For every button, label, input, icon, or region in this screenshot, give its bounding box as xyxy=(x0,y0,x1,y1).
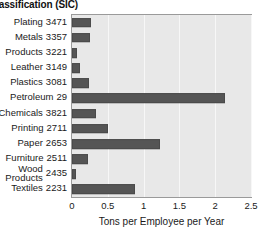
bar-row xyxy=(72,182,251,197)
bar xyxy=(72,124,108,134)
category-name: Metals xyxy=(15,32,43,42)
bar-row xyxy=(72,15,251,30)
category-label: Products3221 xyxy=(0,44,69,59)
category-code: 2653 xyxy=(46,138,67,148)
x-axis-label: Tons per Employee per Year xyxy=(71,216,252,227)
x-tick-label: 2 xyxy=(213,200,218,211)
bar-row xyxy=(72,121,251,136)
category-label: Plastics3081 xyxy=(0,75,69,90)
bar-row xyxy=(72,30,251,45)
bar-row xyxy=(72,76,251,91)
x-tick-label: 1.5 xyxy=(173,200,186,211)
x-tick-label: 0 xyxy=(69,200,74,211)
category-label: Petroleum29 xyxy=(0,90,69,105)
bar-row xyxy=(72,136,251,151)
x-tick-label: 2.5 xyxy=(244,200,257,211)
category-label: Metals3357 xyxy=(0,29,69,44)
bar-row xyxy=(72,167,251,182)
x-tick-label: 0.5 xyxy=(101,200,114,211)
category-name: Chemicals xyxy=(0,108,43,118)
category-code: 3357 xyxy=(46,32,67,42)
category-name: Plastics xyxy=(10,77,43,87)
category-label: Printing2711 xyxy=(0,120,69,135)
bar-row xyxy=(72,60,251,75)
category-code: 3471 xyxy=(46,17,67,27)
category-name: Furniture xyxy=(6,153,44,163)
category-label: Leather3149 xyxy=(0,59,69,74)
category-name: Leather xyxy=(11,62,43,72)
bar xyxy=(72,18,91,28)
plot-area xyxy=(71,14,252,198)
bar xyxy=(72,94,225,104)
bar xyxy=(72,184,135,194)
bar xyxy=(72,33,90,43)
category-name: Textiles xyxy=(11,183,43,193)
category-code: 3821 xyxy=(46,108,67,118)
category-code: 3221 xyxy=(46,47,67,57)
bar-row xyxy=(72,106,251,121)
bar-chart: lassification (SIC) Plating3471Metals335… xyxy=(0,0,262,233)
bar xyxy=(72,169,76,179)
bar-row xyxy=(72,91,251,106)
bar xyxy=(72,154,88,164)
category-name: Paper xyxy=(18,138,43,148)
x-tick-label: 1 xyxy=(141,200,146,211)
bar xyxy=(72,139,160,149)
category-label: Plating3471 xyxy=(0,14,69,29)
category-code: 2435 xyxy=(46,168,67,178)
category-name: Products xyxy=(5,47,43,57)
bar-row xyxy=(72,151,251,166)
chart-title: lassification (SIC) xyxy=(0,0,78,10)
category-name: Printing xyxy=(11,123,43,133)
category-code: 2511 xyxy=(47,153,67,163)
bar xyxy=(72,48,77,58)
bar xyxy=(72,78,89,88)
bar-series xyxy=(72,15,251,197)
category-code: 3081 xyxy=(46,77,67,87)
bar xyxy=(72,63,80,73)
category-label: Paper2653 xyxy=(0,135,69,150)
category-axis: Plating3471Metals3357Products3221Leather… xyxy=(0,14,69,198)
category-label: Chemicals3821 xyxy=(0,105,69,120)
bar-row xyxy=(72,45,251,60)
bar xyxy=(72,109,96,119)
category-code: 3149 xyxy=(46,62,67,72)
category-code: 2711 xyxy=(47,123,67,133)
category-label: Textiles2231 xyxy=(0,181,69,196)
category-name: Petroleum xyxy=(10,92,53,102)
x-axis-ticks: 00.511.522.5 xyxy=(71,200,252,213)
category-code: 2231 xyxy=(46,183,67,193)
category-name: Plating xyxy=(14,17,43,27)
category-code: 29 xyxy=(56,92,67,102)
gridline xyxy=(251,15,252,197)
category-label: Wood Products2435 xyxy=(0,166,69,181)
